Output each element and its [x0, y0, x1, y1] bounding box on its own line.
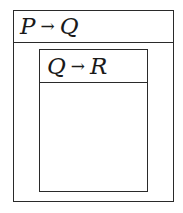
outer-conclusion: Q	[60, 13, 79, 39]
inner-premise: Q	[47, 53, 66, 79]
outer-box-header: P→Q	[14, 11, 173, 43]
outer-premise: P	[20, 13, 35, 39]
implies-arrow-icon: →	[71, 56, 85, 76]
inner-proof-box: Q→R	[39, 49, 148, 192]
inner-box-header: Q→R	[40, 50, 147, 83]
implies-arrow-icon: →	[40, 16, 54, 36]
inner-conclusion: R	[90, 53, 107, 79]
